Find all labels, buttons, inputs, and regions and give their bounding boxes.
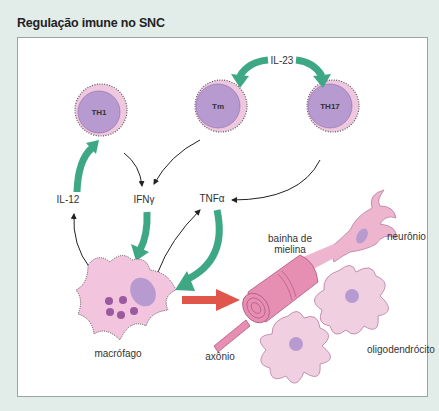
myelin-label-line1: bainha de bbox=[268, 233, 312, 244]
tm-cell: Tm bbox=[195, 80, 247, 132]
neuron-label: neurônio bbox=[387, 231, 426, 242]
ifng-to-macrophage-arrow bbox=[131, 212, 149, 261]
il23-arrows: IL-23 bbox=[231, 55, 331, 88]
myelin-label-line2: mielina bbox=[274, 244, 306, 255]
il12-arrow bbox=[77, 140, 99, 192]
il23-label: IL-23 bbox=[271, 55, 294, 66]
tnfa-to-macrophage-arrow bbox=[175, 210, 219, 291]
damage-arrow bbox=[182, 289, 240, 311]
ifng-label: IFNγ bbox=[133, 194, 154, 205]
oligodendrocyte-label: oligodendrócito bbox=[367, 344, 435, 355]
macrophage-cell bbox=[76, 255, 176, 340]
th17-cell: TH17 bbox=[307, 80, 359, 132]
axon-label: axônio bbox=[205, 351, 235, 362]
tm-label: Tm bbox=[212, 102, 224, 111]
tnfa-label: TNFα bbox=[199, 193, 224, 204]
th17-label: TH17 bbox=[320, 102, 340, 111]
th1-cell: TH1 bbox=[75, 84, 127, 136]
macrophage-label: macrófago bbox=[94, 348, 142, 359]
diagram-canvas: TH1 Tm TH17 IL-23 IL-12 IFNγ TNFα bbox=[0, 0, 439, 411]
il12-label: IL-12 bbox=[57, 194, 80, 205]
th1-label: TH1 bbox=[91, 108, 107, 117]
neuron-cell bbox=[330, 190, 396, 262]
